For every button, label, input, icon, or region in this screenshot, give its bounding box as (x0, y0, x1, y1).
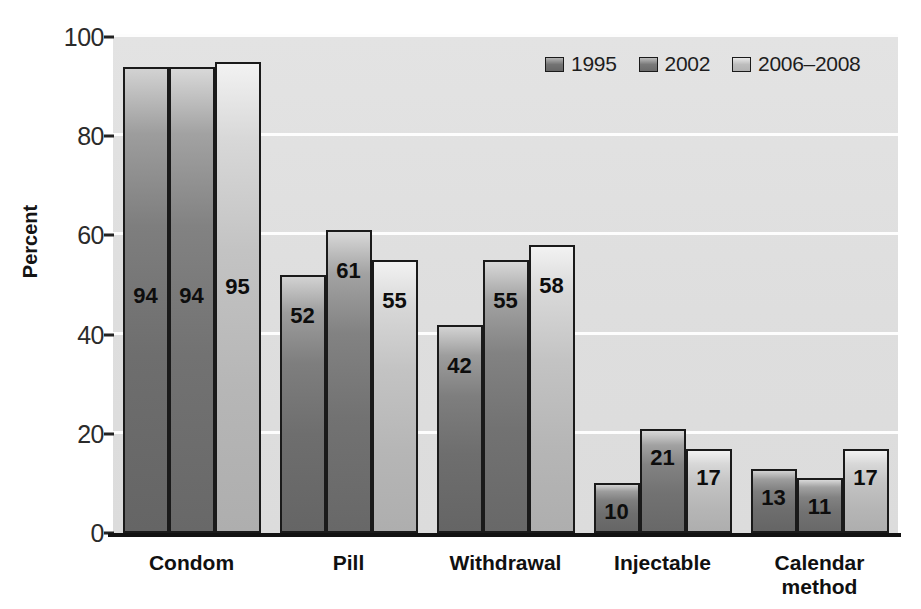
y-tick-label: 60 (40, 221, 104, 250)
bar-value-label: 42 (439, 355, 481, 377)
y-tick-mark (104, 135, 114, 138)
bar-value-label: 17 (688, 467, 730, 489)
bar[interactable]: 13 (751, 469, 797, 533)
bar-value-label: 17 (845, 467, 887, 489)
x-axis-category-label: Injectable (584, 551, 741, 575)
x-axis-category-label-line: Withdrawal (427, 551, 584, 575)
bar-value-label: 11 (799, 496, 841, 518)
bar-value-label: 58 (531, 275, 573, 297)
bar-value-label: 13 (753, 487, 795, 509)
x-axis-category-label-line: Condom (113, 551, 270, 575)
plot-area: 949495526155425558102117131117 (113, 37, 898, 533)
bar[interactable]: 95 (215, 62, 261, 533)
x-axis-category-label: Pill (270, 551, 427, 575)
bar-value-label: 52 (282, 305, 324, 327)
bar-value-label: 21 (642, 447, 684, 469)
y-tick-mark (104, 234, 114, 237)
y-axis-ticks: 020406080100 (28, 0, 104, 609)
legend-label: 1995 (571, 52, 617, 76)
bar-value-label: 55 (374, 290, 416, 312)
legend-label: 2006–2008 (758, 52, 860, 76)
bar-value-label: 10 (596, 501, 638, 523)
x-axis-line (108, 533, 901, 537)
chart-legend: 199520022006–2008 (545, 52, 860, 76)
bar[interactable]: 58 (529, 245, 575, 533)
bar[interactable]: 52 (280, 275, 326, 533)
bar[interactable]: 42 (437, 325, 483, 533)
legend-label: 2002 (665, 52, 711, 76)
bar[interactable]: 21 (640, 429, 686, 533)
y-tick-mark (104, 333, 114, 336)
x-axis-category-label-line: Calendar (741, 551, 898, 575)
bar-group: 425558 (437, 37, 575, 533)
x-axis-category-label-line: Pill (270, 551, 427, 575)
legend-item[interactable]: 2006–2008 (732, 52, 860, 76)
y-tick-label: 20 (40, 419, 104, 448)
bar[interactable]: 11 (797, 478, 843, 533)
bar-value-label: 95 (217, 276, 259, 298)
bar-value-label: 94 (125, 285, 167, 307)
bar-group: 102117 (594, 37, 732, 533)
bar[interactable]: 55 (483, 260, 529, 533)
x-axis-category-label: Withdrawal (427, 551, 584, 575)
bar-group: 526155 (280, 37, 418, 533)
legend-item[interactable]: 2002 (639, 52, 711, 76)
x-axis-category-label: Condom (113, 551, 270, 575)
bar-group: 131117 (751, 37, 889, 533)
bar-group: 949495 (123, 37, 261, 533)
x-axis-category-label: Calendarmethod (741, 551, 898, 599)
bar-value-label: 94 (171, 285, 213, 307)
bar[interactable]: 55 (372, 260, 418, 533)
y-tick-label: 40 (40, 320, 104, 349)
bar[interactable]: 17 (686, 449, 732, 533)
bar-chart: Percent 949495526155425558102117131117 0… (0, 0, 921, 609)
y-tick-label: 80 (40, 122, 104, 151)
bar[interactable]: 10 (594, 483, 640, 533)
bar-value-label: 61 (328, 260, 370, 282)
legend-item[interactable]: 1995 (545, 52, 617, 76)
x-axis-category-label-line: Injectable (584, 551, 741, 575)
y-tick-mark (104, 432, 114, 435)
bar[interactable]: 94 (123, 67, 169, 533)
y-tick-mark (104, 36, 114, 39)
legend-swatch-icon (545, 57, 564, 72)
legend-swatch-icon (732, 57, 751, 72)
bar[interactable]: 17 (843, 449, 889, 533)
x-axis-category-label-line: method (741, 575, 898, 599)
bar[interactable]: 61 (326, 230, 372, 533)
bar-value-label: 55 (485, 290, 527, 312)
legend-swatch-icon (639, 57, 658, 72)
bar[interactable]: 94 (169, 67, 215, 533)
y-tick-label: 0 (40, 519, 104, 548)
y-tick-label: 100 (40, 23, 104, 52)
